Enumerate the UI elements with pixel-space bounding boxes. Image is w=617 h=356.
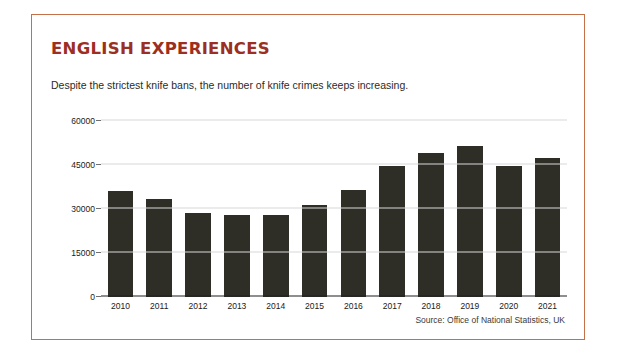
bar-slot[interactable] (256, 121, 295, 297)
bar-slot[interactable] (450, 121, 489, 297)
chart-source: Source: Office of National Statistics, U… (415, 315, 565, 325)
x-axis-labels: 2010201120122013201420152016201720182019… (101, 301, 567, 311)
gridline-45000 (101, 164, 567, 165)
bar-slot[interactable] (217, 121, 256, 297)
bar-slot[interactable] (295, 121, 334, 297)
chart-plot-area: 015000300004500060000 201020112012201320… (51, 107, 567, 297)
bar-2014[interactable] (263, 215, 289, 297)
bar-slot[interactable] (412, 121, 451, 297)
gridline-60000 (101, 120, 567, 121)
bar-2011[interactable] (146, 199, 172, 297)
bar-2019[interactable] (457, 146, 483, 297)
x-axis-label-2019: 2019 (450, 301, 489, 311)
gridline-30000 (101, 208, 567, 209)
x-axis-label-2011: 2011 (140, 301, 179, 311)
gridline-15000 (101, 252, 567, 253)
y-axis-label: 45000 (51, 160, 101, 170)
y-axis-label: 30000 (51, 204, 101, 214)
y-axis-label: 0 (51, 292, 101, 302)
bar-2016[interactable] (341, 190, 367, 297)
bar-slot[interactable] (101, 121, 140, 297)
y-axis-label: 60000 (51, 116, 101, 126)
bar-slot[interactable] (528, 121, 567, 297)
chart-grid: 015000300004500060000 (101, 121, 567, 297)
x-axis-label-2010: 2010 (101, 301, 140, 311)
y-axis-label: 15000 (51, 248, 101, 258)
chart-card: ENGLISH EXPERIENCES Despite the strictes… (31, 14, 585, 340)
x-axis-label-2017: 2017 (373, 301, 412, 311)
bar-slot[interactable] (334, 121, 373, 297)
bar-slot[interactable] (489, 121, 528, 297)
bar-slot[interactable] (373, 121, 412, 297)
x-axis-label-2021: 2021 (528, 301, 567, 311)
x-axis-label-2018: 2018 (412, 301, 451, 311)
bar-slot[interactable] (179, 121, 218, 297)
bar-2021[interactable] (535, 158, 561, 297)
bar-series (101, 121, 567, 297)
x-axis-label-2013: 2013 (217, 301, 256, 311)
x-axis-label-2015: 2015 (295, 301, 334, 311)
x-axis-label-2012: 2012 (179, 301, 218, 311)
x-axis-label-2020: 2020 (489, 301, 528, 311)
bar-2018[interactable] (418, 153, 444, 297)
x-axis-label-2016: 2016 (334, 301, 373, 311)
gridline-0 (101, 295, 567, 296)
x-axis-label-2014: 2014 (256, 301, 295, 311)
bar-2020[interactable] (496, 166, 522, 297)
bar-slot[interactable] (140, 121, 179, 297)
bar-2017[interactable] (379, 166, 405, 297)
bar-2012[interactable] (185, 213, 211, 297)
page-title: ENGLISH EXPERIENCES (51, 39, 270, 58)
chart-subtitle: Despite the strictest knife bans, the nu… (51, 79, 408, 91)
bar-2013[interactable] (224, 215, 250, 297)
